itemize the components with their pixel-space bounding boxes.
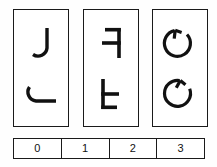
- answer-option-0[interactable]: 0: [14, 139, 62, 158]
- answer-option-2[interactable]: 2: [110, 139, 158, 158]
- stimulus-panel-1[interactable]: [83, 9, 139, 127]
- circle-arrow-rotated-glyph: [158, 73, 202, 115]
- puzzle-canvas: 0 1 2 3: [0, 0, 217, 167]
- answer-options: 0 1 2 3: [13, 138, 205, 159]
- letter-f-rotated-glyph: [89, 73, 133, 115]
- stimulus-panel-row: [13, 9, 208, 127]
- answer-option-1[interactable]: 1: [62, 139, 110, 158]
- letter-j-glyph: [19, 22, 63, 64]
- letter-f-mirrored-glyph: [89, 22, 133, 64]
- stimulus-panel-2[interactable]: [152, 9, 208, 127]
- letter-j-rotated-glyph: [19, 73, 63, 115]
- answer-option-3[interactable]: 3: [157, 139, 204, 158]
- stimulus-panel-0[interactable]: [13, 9, 69, 127]
- circle-arrow-glyph: [158, 22, 202, 64]
